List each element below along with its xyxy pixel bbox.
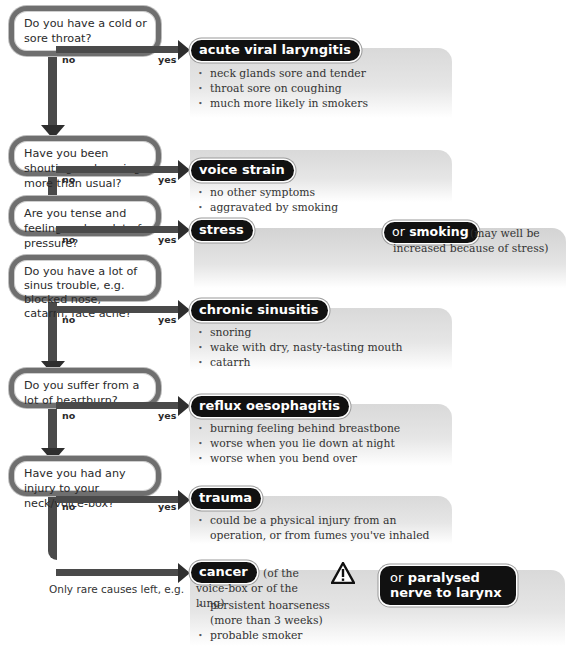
diagnosis-label: paralysed nerve to larynx (390, 570, 502, 600)
yes-arrow-shaft (56, 306, 180, 313)
arrow-right-icon (178, 490, 190, 510)
question-box-6: Have you had any injury to your neck/voi… (9, 456, 161, 496)
yes-arrow-shaft (56, 226, 180, 233)
symptom-item: wake with dry, nasty-tasting mouth (196, 340, 402, 355)
yes-label: yes (158, 501, 176, 512)
diagnosis-label: reflux oesophagitis (199, 398, 340, 413)
no-label: no (62, 54, 75, 65)
note-text: (may well be increased because of stress… (393, 227, 548, 255)
symptom-item: throat sore on coughing (196, 81, 368, 96)
no-label: no (62, 174, 75, 185)
no-label: no (62, 501, 75, 512)
diagnosis-pill-5: reflux oesophagitis (191, 396, 349, 417)
question-box-4: Do you have a lot of sinus trouble, e.g.… (9, 255, 161, 301)
diagnosis-label: voice strain (199, 162, 285, 177)
symptom-list-5: burning feeling behind breastbone worse … (196, 421, 400, 466)
diagnosis-pill-4: chronic sinusitis (191, 300, 328, 321)
symptom-item: worse when you bend over (196, 451, 400, 466)
symptom-item: snoring (196, 325, 402, 340)
yes-label: yes (158, 234, 176, 245)
arrow-right-icon (178, 220, 190, 240)
diagnosis-pill-6: trauma (191, 488, 261, 509)
arrow-right-icon (178, 563, 190, 583)
yes-label: yes (158, 174, 176, 185)
symptom-list-1: neck glands sore and tender throat sore … (196, 66, 368, 111)
symptom-item: much more likely in smokers (196, 96, 368, 111)
symptom-item: neck glands sore and tender (196, 66, 368, 81)
diagnosis-label: stress (199, 222, 244, 237)
symptom-list-6: could be a physical injury from an opera… (196, 513, 446, 543)
diagnosis-pill-3: stress (191, 220, 253, 241)
diagnosis-label: chronic sinusitis (199, 302, 319, 317)
or-label: or (390, 570, 403, 585)
symptom-item: burning feeling behind breastbone (196, 421, 400, 436)
rare-causes-label: Only rare causes left, e.g. (49, 583, 184, 595)
final-arrow-shaft (56, 569, 180, 576)
symptom-list-2: no other symptoms aggravated by smoking (196, 185, 338, 215)
yes-arrow-shaft (56, 166, 180, 173)
yes-arrow-shaft (56, 402, 180, 409)
flow-trunk (48, 55, 57, 132)
warning-triangle-icon (331, 562, 355, 584)
yes-label: yes (158, 410, 176, 421)
symptom-item: could be a physical injury from an opera… (196, 513, 446, 543)
diagnosis-label: acute viral laryngitis (199, 42, 351, 57)
arrow-right-icon (178, 300, 190, 320)
flow-trunk (48, 404, 57, 452)
symptom-item: worse when you lie down at night (196, 436, 400, 451)
question-text: Do you have a cold or sore throat? (24, 17, 147, 45)
symptom-item: aggravated by smoking (196, 200, 338, 215)
symptom-item: probable smoker (196, 628, 361, 643)
yes-arrow-shaft (56, 46, 180, 53)
no-label: no (62, 314, 75, 325)
yes-label: yes (158, 314, 176, 325)
symptom-item: no other symptoms (196, 185, 338, 200)
arrow-right-icon (178, 160, 190, 180)
symptom-item: persistent hoarseness (more than 3 weeks… (196, 598, 361, 628)
diagnosis-pill-1: acute viral laryngitis (191, 40, 360, 61)
alt-diagnosis-pill-final: or paralysed nerve to larynx (380, 566, 516, 605)
diagnosis-pill-2: voice strain (191, 160, 294, 181)
no-label: no (62, 234, 75, 245)
symptom-list-final: persistent hoarseness (more than 3 weeks… (196, 598, 361, 643)
diagnosis-label: trauma (199, 490, 252, 505)
arrow-right-icon (178, 40, 190, 60)
symptom-item: catarrh (196, 355, 402, 370)
yes-label: yes (158, 54, 176, 65)
alt-diagnosis-note: (may well be increased because of stress… (393, 226, 553, 256)
no-label: no (62, 410, 75, 421)
arrow-right-icon (178, 396, 190, 416)
symptom-list-4: snoring wake with dry, nasty-tasting mou… (196, 325, 402, 370)
